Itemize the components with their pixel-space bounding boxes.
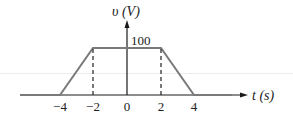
tick-neg2: −2 [86,99,100,114]
tick-neg4: −4 [53,99,67,114]
tick-0: 0 [124,99,131,114]
waveform-svg: υ (V) 100 t (s) −4 −2 0 2 4 [0,0,293,122]
tick-4: 4 [191,99,198,114]
x-axis-arrow-icon [240,93,248,98]
level-label: 100 [131,33,151,48]
y-axis-label: υ (V) [112,4,140,20]
waveform-diagram: υ (V) 100 t (s) −4 −2 0 2 4 [0,0,293,122]
waveform-trace [20,48,232,95]
y-axis-arrow-icon [125,20,130,28]
x-axis-label: t (s) [252,88,275,104]
tick-2: 2 [158,99,165,114]
